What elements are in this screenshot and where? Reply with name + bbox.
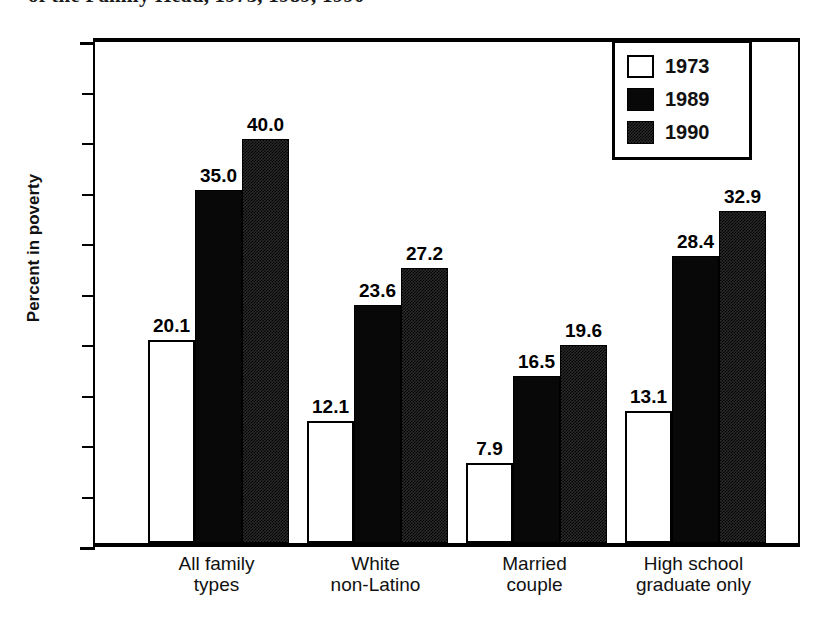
bar-1973-3	[466, 463, 513, 543]
x-axis-category-label: Whitenon-Latino	[331, 553, 421, 596]
bar-value-label: 19.6	[565, 320, 602, 342]
bar-value-label: 40.0	[247, 114, 284, 136]
bar-value-label: 7.9	[476, 438, 502, 460]
y-axis-tick	[82, 497, 95, 499]
legend-item-label: 1973	[665, 55, 710, 78]
bar-value-label: 32.9	[724, 186, 761, 208]
bar-1990-2	[401, 268, 448, 543]
y-axis-tick	[82, 345, 95, 347]
chart-title-clipped: of the Family Head, 1973, 1989, 1990	[0, 0, 821, 13]
bar-1989-2	[354, 305, 401, 543]
bar-value-label: 35.0	[200, 165, 237, 187]
chart-title: of the Family Head, 1973, 1989, 1990	[28, 0, 365, 8]
category-label-line: graduate only	[636, 574, 751, 595]
stippled-square-icon	[627, 121, 654, 144]
black-square-icon	[627, 88, 654, 111]
bar-1990-3	[560, 345, 607, 543]
y-axis-tick	[80, 547, 95, 550]
category-label-line: All family	[178, 553, 254, 574]
bar-value-label: 16.5	[518, 351, 555, 373]
bar-1989-4	[672, 256, 719, 543]
bar-1989-3	[513, 376, 560, 543]
category-label-line: Married	[502, 553, 566, 574]
bar-1989-1	[195, 190, 242, 544]
x-axis-category-label: High schoolgraduate only	[636, 553, 751, 596]
x-axis-category-label: Marriedcouple	[502, 553, 566, 596]
legend-item: 1990	[627, 118, 739, 147]
y-axis-title: Percent in poverty	[24, 148, 44, 348]
bar-value-label: 28.4	[677, 231, 714, 253]
legend-item-label: 1990	[665, 121, 710, 144]
y-axis-tick	[82, 396, 95, 398]
y-axis-tick	[80, 42, 95, 45]
bar-value-label: 27.2	[406, 243, 443, 265]
bar-1973-4	[625, 411, 672, 543]
bar-value-label: 20.1	[153, 315, 190, 337]
bar-1990-1	[242, 139, 289, 543]
category-label-line: non-Latino	[331, 574, 421, 595]
legend-item: 1973	[627, 52, 739, 81]
bar-1973-2	[307, 421, 354, 543]
bar-1973-1	[148, 340, 195, 543]
y-axis-tick	[82, 244, 95, 246]
white-square-icon	[627, 55, 654, 78]
y-axis-tick	[82, 446, 95, 448]
chart-legend: 197319891990	[612, 40, 752, 160]
category-label-line: types	[178, 574, 254, 595]
y-axis-tick	[82, 194, 95, 196]
bar-value-label: 23.6	[359, 280, 396, 302]
bar-1990-4	[719, 211, 766, 543]
category-label-line: couple	[502, 574, 566, 595]
y-axis-tick	[82, 295, 95, 297]
category-label-line: High school	[636, 553, 751, 574]
category-label-line: White	[331, 553, 421, 574]
bar-value-label: 13.1	[630, 386, 667, 408]
legend-item: 1989	[627, 85, 739, 114]
chart-figure: of the Family Head, 1973, 1989, 1990 Per…	[0, 0, 821, 622]
bar-value-label: 12.1	[312, 396, 349, 418]
y-axis-tick	[82, 93, 95, 95]
x-axis-category-label: All familytypes	[178, 553, 254, 596]
y-axis-tick	[82, 143, 95, 145]
legend-item-label: 1989	[665, 88, 710, 111]
